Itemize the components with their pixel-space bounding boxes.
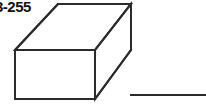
figure-container: 3-255 bbox=[0, 0, 206, 110]
answer-blank-line bbox=[0, 0, 206, 110]
